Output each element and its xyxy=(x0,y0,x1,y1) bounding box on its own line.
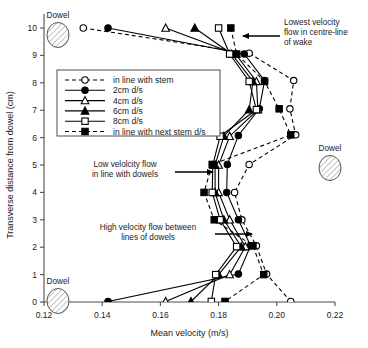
marker-square-filled xyxy=(250,243,256,249)
annotation-line: lines of dowels xyxy=(121,233,175,242)
y-axis-title: Transverse distance from dowel (cm) xyxy=(5,91,15,239)
x-tick-label: 0.18 xyxy=(210,310,227,320)
dowel-hatch xyxy=(47,289,69,314)
dowel-right: Dowel xyxy=(319,144,342,181)
dowel-top-left: Dowel xyxy=(47,11,70,48)
annotation-line: flow in centre-line xyxy=(284,28,348,37)
marker-circle-open xyxy=(246,161,252,167)
x-tick-label: 0.16 xyxy=(152,310,169,320)
marker-circle-filled xyxy=(235,217,241,223)
marker-circle-filled xyxy=(82,87,88,93)
legend-label: in line with next stem d/s xyxy=(113,127,206,137)
marker-square-filled xyxy=(211,217,217,223)
marker-circle-open xyxy=(287,106,293,112)
y-tick-label: 6 xyxy=(32,133,37,143)
y-tick-label: 3 xyxy=(32,215,37,225)
dowel-hatch xyxy=(319,156,341,181)
x-tick-label: 0.12 xyxy=(36,310,53,320)
marker-square-filled xyxy=(261,78,267,84)
x-tick-label: 0.14 xyxy=(94,310,111,320)
series-line xyxy=(191,28,253,302)
y-tick-label: 1 xyxy=(32,270,37,280)
marker-circle-filled xyxy=(105,298,111,304)
annotation-lowest-velocity: Lowest velocityflow in centre-lineof wak… xyxy=(284,18,348,47)
legend-item-5[interactable]: in line with next stem d/s xyxy=(65,127,206,137)
legend-label: 4cm d/s xyxy=(113,96,143,106)
marker-circle-filled xyxy=(224,161,230,167)
y-tick-label: 10 xyxy=(28,23,38,33)
annotation-line: High velocity flow between xyxy=(100,223,197,232)
marker-circle-filled xyxy=(241,51,247,57)
dowel-label: Dowel xyxy=(47,277,70,286)
marker-square-filled xyxy=(233,51,239,57)
marker-circle-open xyxy=(82,77,88,83)
dowel-hatch xyxy=(47,23,69,48)
marker-square-filled xyxy=(261,271,267,277)
annotation-low-velocity: Low velolcity flowin line with dowels xyxy=(92,160,158,179)
marker-circle-open xyxy=(290,77,296,83)
y-tick-label: 0 xyxy=(32,297,37,307)
y-tick-label: 5 xyxy=(32,160,37,170)
y-tick-label: 2 xyxy=(32,242,37,252)
marker-square-open xyxy=(82,118,88,124)
marker-square-open xyxy=(226,51,232,57)
marker-triangle-open xyxy=(226,271,234,278)
x-tick-label: 0.20 xyxy=(269,310,286,320)
velocity-profile-chart: 0.120.140.160.180.200.22012345678910Mean… xyxy=(0,0,368,348)
dowel-bottom-left: Dowel xyxy=(47,277,70,314)
legend-label: in line with stem xyxy=(113,75,173,85)
dowel-label: Dowel xyxy=(319,144,342,153)
x-tick-label: 0.22 xyxy=(327,310,344,320)
marker-circle-open xyxy=(231,189,237,195)
marker-triangle-filled xyxy=(245,106,253,113)
marker-square-filled xyxy=(209,161,215,167)
marker-square-open xyxy=(246,78,252,84)
y-tick-label: 9 xyxy=(32,50,37,60)
marker-circle-open xyxy=(288,298,294,304)
marker-square-filled xyxy=(201,189,207,195)
marker-square-filled xyxy=(82,128,88,134)
annotation-line: Low velolcity flow xyxy=(93,160,156,169)
y-tick-label: 4 xyxy=(32,187,37,197)
y-tick-label: 8 xyxy=(32,78,37,88)
marker-circle-filled xyxy=(235,271,241,277)
marker-triangle-filled xyxy=(191,24,199,31)
dowel-markers: DowelDowelDowel xyxy=(47,11,342,314)
marker-square-open xyxy=(215,25,221,31)
legend-label: 6cm d/s xyxy=(113,106,143,116)
marker-square-open xyxy=(253,106,259,112)
annotation-high-velocity: High velocity flow betweenlines of dowel… xyxy=(100,223,197,242)
chart-legend[interactable]: in line with stem2cm d/s4cm d/s6cm d/s8c… xyxy=(57,70,220,137)
annotation-line: Lowest velocity xyxy=(284,18,340,27)
marker-square-open xyxy=(209,189,215,195)
dowel-label: Dowel xyxy=(47,11,70,20)
marker-triangle-open xyxy=(162,297,170,304)
y-tick-label: 7 xyxy=(32,105,37,115)
annotation-line: in line with dowels xyxy=(92,170,158,179)
marker-square-open xyxy=(212,271,218,277)
marker-square-filled xyxy=(228,25,234,31)
marker-triangle-open xyxy=(162,24,170,31)
marker-square-filled xyxy=(222,298,228,304)
marker-square-filled xyxy=(288,132,294,138)
marker-square-filled xyxy=(276,106,282,112)
marker-square-open xyxy=(233,243,239,249)
x-axis-title: Mean velocity (m/s) xyxy=(150,328,228,338)
marker-circle-filled xyxy=(235,132,241,138)
marker-square-open xyxy=(208,298,214,304)
marker-circle-filled xyxy=(224,189,230,195)
marker-circle-open xyxy=(80,25,86,31)
legend-label: 8cm d/s xyxy=(113,116,143,126)
annotation-line: of wake xyxy=(284,38,313,47)
marker-circle-filled xyxy=(105,25,111,31)
figure-container: 0.120.140.160.180.200.22012345678910Mean… xyxy=(0,0,368,348)
legend-label: 2cm d/s xyxy=(113,85,143,95)
